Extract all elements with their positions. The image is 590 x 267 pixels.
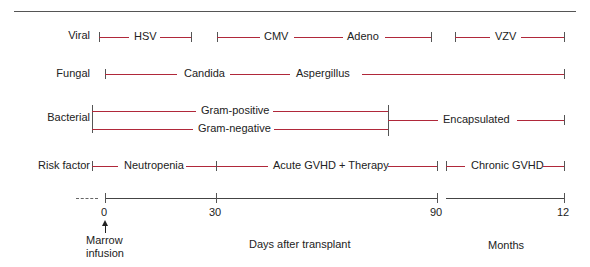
chronic-bar-left — [446, 166, 465, 167]
top-rule — [14, 11, 576, 12]
neutropenia-acute-bar — [186, 166, 268, 167]
hsv-bar-right — [160, 37, 191, 38]
tick-label-0: 0 — [101, 206, 107, 218]
cmv-label: CMV — [264, 30, 288, 42]
vzv-label: VZV — [495, 30, 516, 42]
acute-gvhd-label: Acute GVHD + Therapy — [273, 159, 389, 171]
encapsulated-label: Encapsulated — [443, 113, 510, 125]
neutropenia-bar-left — [92, 166, 118, 167]
axis-tick-0 — [105, 193, 106, 203]
tick-label-12: 12 — [557, 206, 569, 218]
encapsulated-end-tick — [564, 115, 565, 125]
days-after-transplant-label: Days after transplant — [249, 238, 351, 250]
marrow-label: Marrow — [86, 234, 123, 246]
vzv-bar-right — [521, 37, 564, 38]
marrow-arrow-shaft — [105, 225, 106, 233]
months-label: Months — [488, 239, 524, 251]
hsv-end-tick — [191, 32, 192, 42]
row-label-viral: Viral — [0, 29, 90, 41]
adeno-end-tick — [431, 32, 432, 42]
fungal-end-tick — [564, 69, 565, 79]
chronic-gvhd-label: Chronic GVHD — [471, 159, 544, 171]
axis-dashed-lead — [76, 198, 98, 200]
candida-bar-left — [105, 74, 177, 75]
hsv-label: HSV — [134, 30, 157, 42]
row-label-risk-factor: Risk factor — [0, 159, 90, 171]
chronic-bar-right — [543, 166, 564, 167]
encapsulated-bar-left — [388, 120, 438, 121]
acute-end-tick — [437, 161, 438, 171]
candida-label: Candida — [184, 67, 225, 79]
axis-tick-90 — [437, 193, 438, 203]
neutropenia-label: Neutropenia — [124, 159, 184, 171]
hsv-bar-left — [99, 37, 129, 38]
row-label-bacterial: Bacterial — [0, 111, 90, 123]
risk-30-tick — [216, 161, 217, 171]
infusion-label: infusion — [86, 247, 124, 259]
row-label-fungal: Fungal — [0, 67, 90, 79]
gram-negative-label: Gram-negative — [198, 122, 271, 134]
acute-gvhd-bar-right — [388, 166, 437, 167]
adeno-label: Adeno — [347, 30, 379, 42]
gram-negative-bar-right — [274, 129, 388, 130]
gram-positive-bar-right — [273, 111, 388, 112]
encapsulated-bar-right — [517, 120, 564, 121]
days-axis — [105, 198, 437, 199]
tick-label-90: 90 — [430, 206, 442, 218]
aspergillus-bar-right — [362, 74, 564, 75]
months-axis — [446, 198, 564, 199]
gram-positive-bar-left — [92, 111, 196, 112]
aspergillus-label: Aspergillus — [296, 67, 350, 79]
axis-tick-30 — [216, 193, 217, 203]
gram-positive-label: Gram-positive — [201, 104, 269, 116]
cmv-adeno-bar — [294, 37, 343, 38]
adeno-bar-right — [385, 37, 431, 38]
tick-label-30: 30 — [209, 206, 221, 218]
chronic-end-tick — [564, 161, 565, 171]
cmv-bar-left — [217, 37, 260, 38]
vzv-end-tick — [564, 32, 565, 42]
axis-tick-12 — [564, 193, 565, 203]
vzv-bar-left — [455, 37, 490, 38]
candida-aspergillus-bar — [230, 74, 290, 75]
gram-negative-bar-left — [92, 129, 193, 130]
